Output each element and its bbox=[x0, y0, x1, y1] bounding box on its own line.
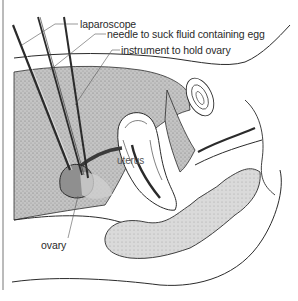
label-ovary: ovary bbox=[41, 240, 66, 251]
leader-needle bbox=[50, 34, 106, 70]
bowel bbox=[105, 169, 260, 259]
label-instrument: instrument to hold ovary bbox=[121, 45, 231, 56]
label-needle: needle to suck fluid containing egg bbox=[107, 29, 265, 40]
label-uterus: uterus bbox=[117, 156, 144, 166]
vaginal-canal-lower bbox=[195, 140, 262, 165]
vaginal-canal bbox=[198, 128, 255, 152]
leader-laparoscope bbox=[22, 24, 78, 45]
